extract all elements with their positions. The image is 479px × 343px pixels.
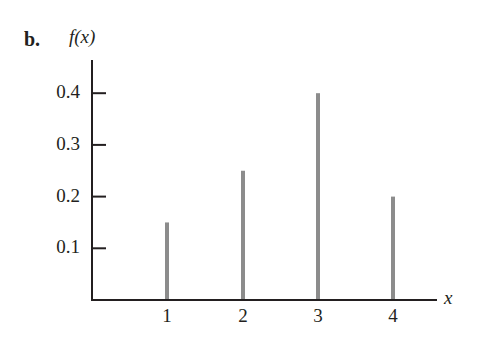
bar-x-2 xyxy=(241,171,245,300)
bar-x-3 xyxy=(316,93,320,300)
bar-x-4 xyxy=(391,197,395,300)
y-tick-marks xyxy=(92,93,106,248)
bars xyxy=(165,93,395,300)
chart-plot-area xyxy=(0,0,479,343)
bar-x-1 xyxy=(165,222,169,300)
